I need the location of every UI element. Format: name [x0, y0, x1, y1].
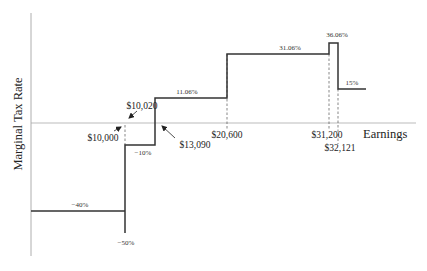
earnings-label-10000: $10,000: [88, 133, 119, 143]
rate-label-11-06: 11.06%: [176, 88, 197, 96]
earnings-label-31200: $31,200: [312, 130, 343, 140]
arrow-13090: [162, 126, 175, 138]
rate-label-15: 15%: [346, 79, 359, 87]
earnings-label-10020: $10,020: [127, 101, 158, 111]
arrow-10000: [114, 127, 121, 131]
earnings-label-32121: $32,121: [325, 143, 356, 153]
rate-label-minus40: −40%: [72, 201, 89, 209]
rate-label-36-06: 36.06%: [326, 31, 348, 39]
rate-label-31-06: 31.06%: [279, 44, 301, 52]
rate-label-minus50: −50%: [118, 239, 135, 247]
arrow-10020: [129, 111, 137, 118]
x-axis-title: Earnings: [363, 127, 408, 141]
y-axis-title: Marginal Tax Rate: [11, 77, 25, 171]
rate-label-minus10: −10%: [135, 149, 152, 157]
earnings-label-13090: $13,090: [180, 140, 211, 150]
earnings-label-20600: $20,600: [212, 130, 243, 140]
chart-canvas: −40% −50% −10% 11.06% 31.06% 36.06% 15% …: [0, 0, 427, 271]
